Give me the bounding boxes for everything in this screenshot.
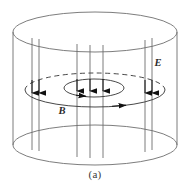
outer-loop-back-arc	[25, 73, 165, 90]
outer-loop-direction-arrow	[112, 105, 126, 106]
figure-caption: (a)	[0, 168, 190, 180]
field-line-arrowheads	[32, 79, 152, 93]
outer-magnetic-loop	[25, 73, 165, 107]
magnetic-field-label: B	[57, 105, 65, 116]
electric-field-label: E	[153, 57, 161, 68]
inner-loop-ellipse	[64, 79, 124, 97]
inner-magnetic-loop	[64, 79, 124, 97]
outer-loop-front-arc	[25, 90, 165, 107]
cylinder-field-diagram: E B	[0, 0, 190, 170]
electric-field-lines	[32, 38, 152, 158]
inner-loop-direction-arrow	[76, 95, 86, 96]
figure-container: E B (a)	[0, 0, 190, 195]
